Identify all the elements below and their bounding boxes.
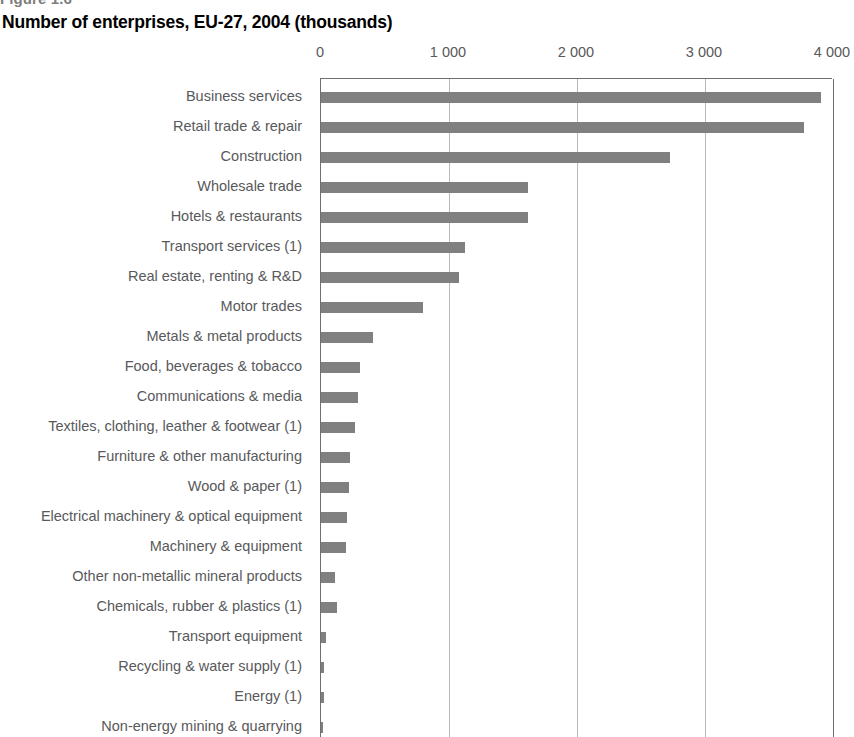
bar-row: [321, 322, 832, 352]
bar-row: [321, 262, 832, 292]
y-axis-category-label: Construction: [0, 141, 312, 171]
bar-row: [321, 292, 832, 322]
y-axis-category-label: Metals & metal products: [0, 321, 312, 351]
y-axis-category-labels: Business servicesRetail trade & repairCo…: [0, 78, 312, 737]
bar: [321, 422, 355, 433]
figure-caption-strip: Figure 1.6: [0, 0, 854, 9]
bar: [321, 332, 373, 343]
y-axis-category-label: Transport services (1): [0, 231, 312, 261]
bar: [321, 452, 350, 463]
bar-row: [321, 172, 832, 202]
y-axis-category-label: Transport equipment: [0, 621, 312, 651]
bar: [321, 182, 528, 193]
bar: [321, 572, 335, 583]
bar: [321, 362, 360, 373]
y-axis-category-label: Non-energy mining & quarrying: [0, 711, 312, 737]
bar: [321, 722, 323, 733]
bar: [321, 692, 324, 703]
y-axis-category-label: Food, beverages & tobacco: [0, 351, 312, 381]
y-axis-category-label: Wood & paper (1): [0, 471, 312, 501]
x-axis-tick-label: 0: [316, 44, 324, 60]
figure-number-label: Figure 1.6: [0, 0, 72, 7]
bar: [321, 632, 326, 643]
bar: [321, 92, 821, 103]
bar: [321, 272, 459, 283]
bar: [321, 482, 349, 493]
bar: [321, 122, 804, 133]
y-axis-category-label: Chemicals, rubber & plastics (1): [0, 591, 312, 621]
bar: [321, 212, 528, 223]
bar-row: [321, 502, 832, 532]
y-axis-category-label: Recycling & water supply (1): [0, 651, 312, 681]
bar: [321, 542, 346, 553]
y-axis-category-label: Retail trade & repair: [0, 111, 312, 141]
x-axis-tick-label: 4 000: [814, 44, 850, 60]
bar-row: [321, 382, 832, 412]
x-axis-tick-labels: 01 0002 0003 0004 000: [0, 44, 854, 64]
y-axis-category-label: Real estate, renting & R&D: [0, 261, 312, 291]
bar: [321, 302, 423, 313]
y-axis-category-label: Business services: [0, 81, 312, 111]
bar-row: [321, 682, 832, 712]
page-title: Number of enterprises, EU-27, 2004 (thou…: [2, 12, 393, 33]
y-axis-category-label: Textiles, clothing, leather & footwear (…: [0, 411, 312, 441]
bar-row: [321, 142, 832, 172]
bar-row: [321, 562, 832, 592]
bar: [321, 392, 358, 403]
y-axis-category-label: Motor trades: [0, 291, 312, 321]
bar: [321, 242, 465, 253]
bar-row: [321, 112, 832, 142]
y-axis-category-label: Communications & media: [0, 381, 312, 411]
x-axis-tick-label: 1 000: [430, 44, 466, 60]
bar: [321, 152, 670, 163]
bar-row: [321, 592, 832, 622]
bar-row: [321, 202, 832, 232]
plot-area: [320, 78, 832, 737]
y-axis-category-label: Electrical machinery & optical equipment: [0, 501, 312, 531]
bar: [321, 602, 337, 613]
y-axis-category-label: Furniture & other manufacturing: [0, 441, 312, 471]
y-axis-category-label: Other non-metallic mineral products: [0, 561, 312, 591]
bar: [321, 512, 347, 523]
bar-row: [321, 352, 832, 382]
gridline: [833, 79, 834, 737]
y-axis-category-label: Machinery & equipment: [0, 531, 312, 561]
bar-rows: [321, 79, 832, 737]
x-axis-tick-label: 2 000: [558, 44, 594, 60]
bar-row: [321, 442, 832, 472]
x-axis-tick-label: 3 000: [686, 44, 722, 60]
bar-row: [321, 622, 832, 652]
bar-row: [321, 412, 832, 442]
bar: [321, 662, 324, 673]
bar-row: [321, 532, 832, 562]
y-axis-category-label: Energy (1): [0, 681, 312, 711]
bar-row: [321, 82, 832, 112]
chart-page: Figure 1.6 Number of enterprises, EU-27,…: [0, 0, 854, 737]
y-axis-category-label: Wholesale trade: [0, 171, 312, 201]
bar-row: [321, 472, 832, 502]
bar-row: [321, 232, 832, 262]
bar-row: [321, 712, 832, 737]
y-axis-category-label: Hotels & restaurants: [0, 201, 312, 231]
bar-row: [321, 652, 832, 682]
